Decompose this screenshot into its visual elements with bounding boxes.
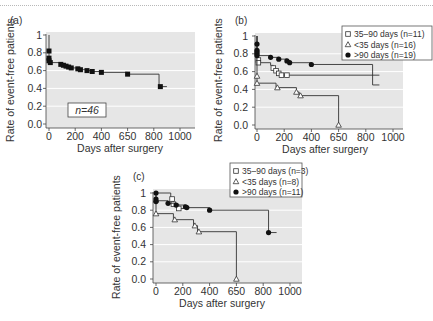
x-tick-label: 400 (303, 131, 321, 143)
chart-panel-b: 0.00.20.40.60.8102004006508001000Days af… (212, 15, 432, 155)
legend-entry: 35–90 days (n=11) (354, 29, 425, 39)
x-tick-label: 800 (145, 130, 163, 142)
x-tick-label: 400 (201, 285, 219, 297)
km-figure: 0.00.20.40.60.8102004006508001000Days af… (0, 0, 433, 321)
filled-circle-marker (165, 201, 170, 206)
legend-entry: <35 days (n=16) (354, 40, 416, 50)
y-tick-label: 1 (242, 30, 248, 42)
y-tick-label: 1 (36, 29, 42, 41)
filled-square-marker (84, 68, 89, 73)
filled-circle-marker (345, 52, 350, 57)
filled-circle-marker (207, 208, 212, 213)
filled-square-marker (125, 72, 130, 77)
filled-square-marker (78, 67, 83, 72)
x-tick-label: 0 (153, 285, 159, 297)
y-axis-label: Rate of event-free patients (110, 175, 122, 299)
x-tick-label: 1000 (278, 285, 302, 297)
panel-label: (b) (235, 15, 247, 26)
x-tick-label: 0 (254, 131, 260, 143)
filled-square-marker (158, 84, 163, 89)
panel-label: (a) (10, 15, 22, 26)
y-tick-label: 0.2 (233, 101, 248, 113)
filled-circle-marker (184, 205, 189, 210)
filled-circle-marker (268, 55, 273, 60)
filled-circle-marker (287, 60, 292, 65)
x-tick-label: 200 (174, 285, 192, 297)
filled-square-marker (99, 70, 104, 75)
y-tick-label: 0.8 (27, 46, 42, 58)
y-tick-label: 0.0 (233, 119, 248, 131)
x-tick-label: 1000 (381, 131, 405, 143)
chart-panel-a: 0.00.20.40.60.8102004006508001000Days af… (4, 15, 195, 154)
y-axis-label: Rate of event-free patients (4, 18, 16, 142)
open-square-marker (285, 73, 290, 78)
open-square-marker (170, 197, 175, 202)
legend-entry: >90 days (n=19) (354, 50, 416, 60)
x-axis-label: Days after surgery (282, 143, 369, 155)
filled-circle-marker (153, 199, 158, 204)
y-tick-label: 0.2 (131, 255, 146, 267)
y-axis-label: Rate of event-free patients (212, 18, 224, 142)
chart-panel-c: 0.00.20.40.60.8102004006508001000Days af… (110, 163, 309, 309)
filled-square-marker (48, 60, 53, 65)
y-tick-label: 0.0 (131, 273, 146, 285)
x-tick-label: 800 (254, 285, 272, 297)
y-tick-label: 0.4 (131, 238, 146, 250)
filled-circle-marker (174, 202, 179, 207)
open-square-marker (346, 32, 351, 37)
filled-circle-marker (276, 57, 281, 62)
y-tick-label: 0.6 (27, 64, 42, 76)
open-square-marker (279, 73, 284, 78)
x-tick-label: 200 (275, 131, 293, 143)
open-square-marker (234, 169, 239, 174)
y-tick-label: 0.6 (131, 221, 146, 233)
filled-circle-marker (233, 189, 238, 194)
x-tick-label: 650 (228, 285, 246, 297)
y-tick-label: 0.8 (233, 47, 248, 59)
filled-circle-marker (309, 62, 314, 67)
y-tick-label: 0.8 (131, 204, 146, 216)
x-tick-label: 650 (330, 131, 348, 143)
filled-square-marker (69, 65, 74, 70)
legend-entry: <35 days (n=8) (242, 177, 299, 187)
filled-square-marker (90, 69, 95, 74)
filled-circle-marker (266, 230, 271, 235)
legend-entry: 35–90 days (n=3) (242, 166, 309, 176)
x-tick-label: 650 (119, 130, 137, 142)
filled-circle-marker (153, 190, 158, 195)
x-tick-label: 0 (46, 130, 52, 142)
y-tick-label: 0.6 (233, 65, 248, 77)
filled-circle-marker (254, 53, 259, 58)
x-tick-label: 400 (93, 130, 111, 142)
x-tick-label: 200 (66, 130, 84, 142)
x-tick-label: 800 (357, 131, 375, 143)
x-tick-label: 1000 (168, 130, 192, 142)
legend-entry: >90 days (n=11) (242, 187, 303, 197)
y-tick-label: 1 (140, 187, 146, 199)
filled-circle-marker (254, 41, 259, 46)
y-tick-label: 0.4 (27, 82, 42, 94)
y-tick-label: 0.0 (27, 118, 42, 130)
y-tick-label: 0.4 (233, 83, 248, 95)
x-axis-label: Days after surgery (179, 297, 266, 309)
panel-label: (c) (133, 171, 145, 182)
filled-square-marker (47, 49, 52, 54)
y-tick-label: 0.2 (27, 100, 42, 112)
x-axis-label: Days after surgery (77, 142, 164, 154)
annotation-text: n=46 (75, 104, 99, 116)
